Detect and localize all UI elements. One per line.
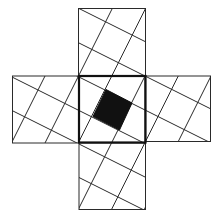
grid-line-steep: [140, 67, 216, 218]
grid-line-shallow: [140, 141, 216, 179]
grid-line-steep: [74, 0, 151, 85]
grid-line-steep: [8, 197, 85, 218]
shaded-center-square: [93, 90, 132, 131]
left-square-grid: [8, 0, 85, 218]
grid-line-steep: [140, 0, 216, 20]
grid-line-steep: [74, 0, 151, 85]
grid-line-shallow: [8, 142, 85, 181]
grid-line-steep: [74, 132, 151, 219]
grid-line-shallow: [140, 74, 216, 112]
left-square: [13, 76, 80, 143]
grid-line-steep: [74, 132, 151, 219]
grid-line-steep: [140, 0, 216, 86]
right-square-grid: [140, 0, 216, 218]
cross-diagram: [0, 0, 221, 218]
grid-line-shallow: [74, 6, 151, 45]
grid-line-steep: [74, 132, 151, 219]
grid-line-shallow: [140, 175, 216, 213]
grid-line-shallow: [140, 108, 216, 146]
grid-line-shallow: [140, 208, 216, 218]
top-square: [79, 9, 146, 76]
grid-line-shallow: [8, 0, 85, 11]
grid-line-shallow: [74, 40, 151, 79]
grid-line-steep: [140, 2, 216, 153]
bottom-square: [79, 143, 146, 210]
grid-line-shallow: [8, 41, 85, 80]
grid-line-steep: [8, 131, 85, 219]
grid-line-shallow: [140, 39, 216, 77]
grid-line-shallow: [74, 142, 151, 180]
grid-line-shallow: [8, 75, 85, 114]
right-square: [145, 76, 211, 142]
grid-line-shallow: [8, 7, 85, 46]
